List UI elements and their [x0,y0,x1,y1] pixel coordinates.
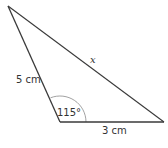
side-left [8,6,60,122]
angle-label: 115° [57,107,81,118]
triangle-diagram: 5 cm x 115° 3 cm [0,0,168,148]
side-hypotenuse-label: x [90,54,96,65]
side-left-label: 5 cm [16,74,41,85]
side-bottom-label: 3 cm [102,125,127,136]
side-hypotenuse [8,6,164,122]
